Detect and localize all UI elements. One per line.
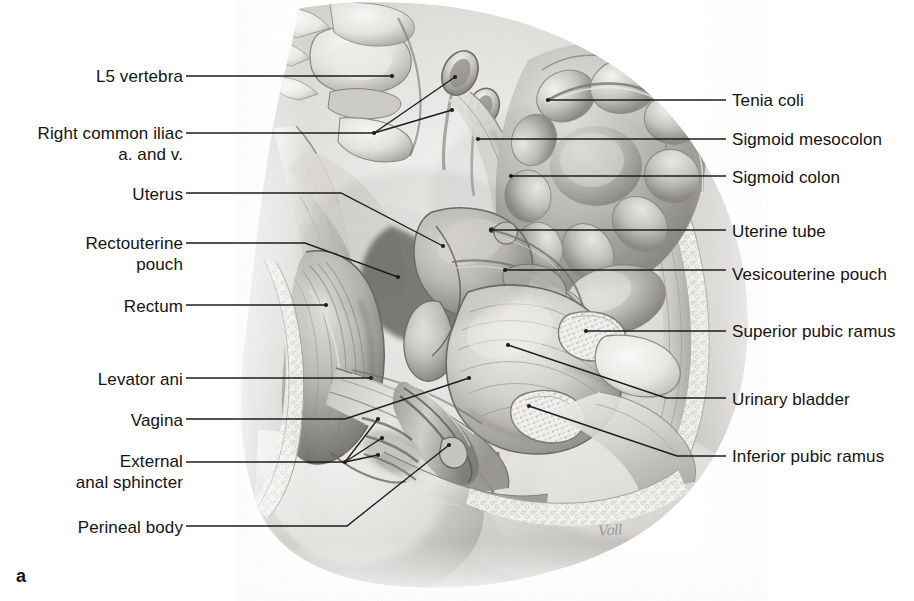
panel-letter: a bbox=[16, 566, 26, 587]
label-uterus: Uterus bbox=[132, 184, 183, 205]
leader-vagina-tip bbox=[467, 376, 471, 380]
label-vagina: Vagina bbox=[131, 410, 183, 431]
label-superior-pubic-ramus: Superior pubic ramus bbox=[732, 321, 896, 342]
label-inferior-pubic-ramus: Inferior pubic ramus bbox=[732, 446, 884, 467]
label-l5-vertebra: L5 vertebra bbox=[96, 66, 183, 87]
leader-levator-ani-tip bbox=[369, 376, 373, 380]
leader-uterine-tube-tip bbox=[489, 228, 493, 232]
label-tenia-coli: Tenia coli bbox=[732, 90, 804, 111]
label-uterine-tube: Uterine tube bbox=[732, 221, 826, 242]
anatomy-figure: L5 vertebra Right common iliac a. and v.… bbox=[0, 0, 914, 601]
leader-eas-b2-tip bbox=[380, 436, 384, 440]
leader-eas-b3-tip bbox=[376, 453, 380, 457]
leader-rectum-tip bbox=[324, 303, 328, 307]
leader-sigmoid-mesocolon-tip bbox=[476, 137, 480, 141]
label-sigmoid-mesocolon: Sigmoid mesocolon bbox=[732, 129, 882, 150]
label-sigmoid-colon: Sigmoid colon bbox=[732, 167, 840, 188]
leader-l5-vertebra-tip bbox=[390, 74, 394, 78]
leader-uterus-tip bbox=[441, 244, 445, 248]
label-rectum: Rectum bbox=[124, 296, 183, 317]
artist-signature: Voll bbox=[597, 521, 622, 539]
label-perineal-body: Perineal body bbox=[78, 517, 183, 538]
leader-eas-b1-tip bbox=[376, 417, 380, 421]
leader-inferior-pubic-ramus-tip bbox=[527, 404, 531, 408]
label-right-common-iliac: Right common iliac a. and v. bbox=[38, 123, 183, 165]
label-external-anal-sphincter: External anal sphincter bbox=[76, 451, 183, 493]
leader-perineal-body-tip bbox=[447, 443, 451, 447]
label-urinary-bladder: Urinary bladder bbox=[732, 389, 850, 410]
leader-superior-pubic-ramus-tip bbox=[584, 329, 588, 333]
label-rectouterine-pouch: Rectouterine pouch bbox=[85, 233, 183, 275]
leader-eas-tip bbox=[343, 460, 347, 464]
leader-rectouterine-pouch-tip bbox=[396, 275, 400, 279]
leader-vesicouterine-pouch-tip bbox=[503, 268, 507, 272]
leader-tenia-coli-tip bbox=[546, 98, 550, 102]
leader-right-common-iliac-tip bbox=[372, 131, 376, 135]
label-levator-ani: Levator ani bbox=[98, 369, 183, 390]
leader-right-common-iliac-b2-tip bbox=[450, 108, 454, 112]
label-vesicouterine-pouch: Vesicouterine pouch bbox=[732, 264, 887, 285]
leader-sigmoid-colon-tip bbox=[509, 174, 513, 178]
leader-right-common-iliac-b1-tip bbox=[453, 75, 457, 79]
leader-urinary-bladder-tip bbox=[506, 343, 510, 347]
